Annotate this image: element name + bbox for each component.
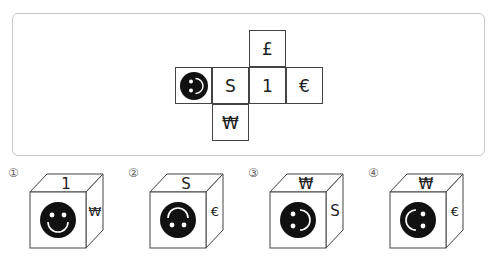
cube-icon: S € bbox=[128, 160, 248, 260]
won-symbol: ₩ bbox=[222, 113, 239, 133]
smiley-face-icon bbox=[40, 202, 76, 238]
smiley-face-icon bbox=[160, 202, 196, 238]
net-cell-s: S bbox=[212, 67, 249, 104]
net-cell-won: ₩ bbox=[212, 104, 249, 141]
one-symbol: 1 bbox=[262, 76, 273, 96]
euro-symbol: € bbox=[299, 76, 310, 96]
smiley-face-icon bbox=[400, 202, 436, 238]
option-4[interactable]: ④ ₩ € bbox=[368, 160, 488, 260]
smiley-face-icon bbox=[280, 202, 316, 238]
smiley-face-icon bbox=[179, 71, 209, 101]
cube-icon: ₩ S bbox=[248, 160, 368, 260]
net-cell-one: 1 bbox=[249, 67, 286, 104]
cube-icon: ₩ € bbox=[368, 160, 488, 260]
option-2[interactable]: ② S € bbox=[128, 160, 248, 260]
net-cell-euro: € bbox=[286, 67, 323, 104]
right-face-label: ₩ bbox=[89, 204, 102, 219]
top-face-label: ₩ bbox=[299, 175, 314, 193]
s-symbol: S bbox=[225, 76, 236, 96]
net-cell-smiley bbox=[175, 67, 212, 104]
pound-symbol: £ bbox=[262, 39, 273, 59]
cube-icon: 1 ₩ bbox=[8, 160, 128, 260]
net-cell-pound: £ bbox=[249, 30, 286, 67]
top-face-label: S bbox=[181, 175, 191, 193]
right-face-label: € bbox=[451, 204, 459, 219]
option-1[interactable]: ① 1 ₩ bbox=[8, 160, 128, 260]
option-3[interactable]: ③ ₩ S bbox=[248, 160, 368, 260]
net-panel: £ S 1 € ₩ bbox=[12, 13, 485, 156]
right-face-label: S bbox=[330, 202, 340, 220]
right-face-label: € bbox=[211, 204, 219, 219]
top-face-label: 1 bbox=[61, 175, 71, 193]
top-face-label: ₩ bbox=[419, 175, 434, 193]
